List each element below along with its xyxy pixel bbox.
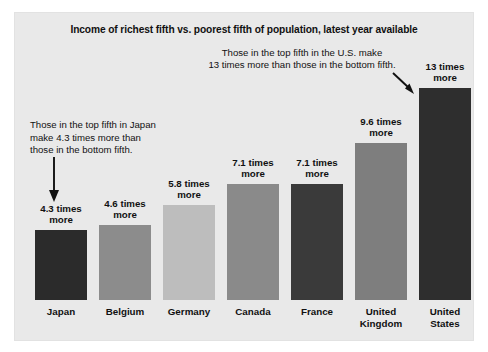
bar-rect[interactable] <box>99 225 151 300</box>
bar-category-label: UnitedKingdom <box>345 306 417 329</box>
bar-value-label-line2: more <box>282 168 352 179</box>
bar-value-label: 13 timesmore <box>410 61 480 84</box>
bar-rect[interactable] <box>355 143 407 300</box>
bar-rect[interactable] <box>163 205 215 300</box>
bar-category-label: France <box>281 306 353 318</box>
bar-category-label: Canada <box>217 306 289 318</box>
bar-group: 5.8 timesmoreGermany <box>163 12 215 341</box>
bar-category-label: Japan <box>25 306 97 318</box>
bar-value-label: 4.3 timesmore <box>26 203 96 226</box>
bar-value-label-line1: 7.1 times <box>282 157 352 168</box>
bar-value-label-line2: more <box>410 72 480 83</box>
bar-group: 4.3 timesmoreJapan <box>35 12 87 341</box>
bar-group: 13 timesmoreUnitedStates <box>419 12 471 341</box>
bar-category-label-line1: Japan <box>25 306 97 318</box>
bar-category-label-line1: Germany <box>153 306 225 318</box>
bar-category-label-line1: Belgium <box>89 306 161 318</box>
bar-value-label: 7.1 timesmore <box>282 157 352 180</box>
chart-figure: Income of richest fifth vs. poorest fift… <box>0 0 488 352</box>
bar-rect[interactable] <box>227 184 279 300</box>
bar-value-label: 9.6 timesmore <box>346 116 416 139</box>
bar-category-label-line1: United <box>409 306 481 318</box>
bar-category-label: Germany <box>153 306 225 318</box>
bar-value-label-line1: 9.6 times <box>346 116 416 127</box>
bar-group: 7.1 timesmoreFrance <box>291 12 343 341</box>
bar-category-label-line2: Kingdom <box>345 318 417 330</box>
bar-rect[interactable] <box>35 230 87 300</box>
bar-value-label: 4.6 timesmore <box>90 198 160 221</box>
bar-plot-area: 4.3 timesmoreJapan4.6 timesmoreBelgium5.… <box>14 12 474 341</box>
bar-value-label-line2: more <box>346 127 416 138</box>
bar-value-label-line1: 5.8 times <box>154 178 224 189</box>
bar-value-label-line1: 7.1 times <box>218 157 288 168</box>
bar-category-label: UnitedStates <box>409 306 481 329</box>
bar-rect[interactable] <box>419 88 471 300</box>
bar-value-label-line2: more <box>90 209 160 220</box>
bar-category-label-line1: Canada <box>217 306 289 318</box>
bar-value-label-line2: more <box>154 189 224 200</box>
bar-value-label-line2: more <box>26 214 96 225</box>
bar-value-label-line2: more <box>218 168 288 179</box>
bar-category-label-line2: States <box>409 318 481 330</box>
bar-category-label: Belgium <box>89 306 161 318</box>
bar-value-label: 7.1 timesmore <box>218 157 288 180</box>
bar-value-label-line1: 13 times <box>410 61 480 72</box>
bar-rect[interactable] <box>291 184 343 300</box>
bar-category-label-line1: France <box>281 306 353 318</box>
bar-group: 4.6 timesmoreBelgium <box>99 12 151 341</box>
bar-group: 9.6 timesmoreUnitedKingdom <box>355 12 407 341</box>
bar-value-label-line1: 4.6 times <box>90 198 160 209</box>
bar-group: 7.1 timesmoreCanada <box>227 12 279 341</box>
bar-value-label-line1: 4.3 times <box>26 203 96 214</box>
bar-category-label-line1: United <box>345 306 417 318</box>
bar-value-label: 5.8 timesmore <box>154 178 224 201</box>
